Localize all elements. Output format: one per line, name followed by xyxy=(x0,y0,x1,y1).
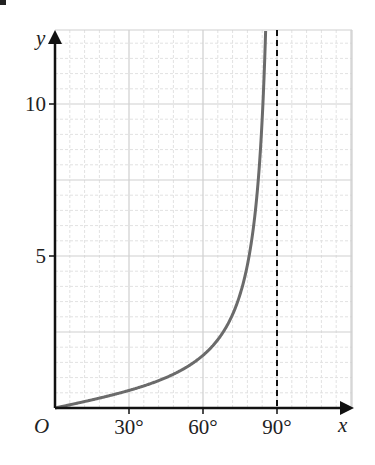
origin-label: O xyxy=(34,414,49,438)
x-axis-label: x xyxy=(337,413,348,437)
tan-curve xyxy=(55,31,266,408)
x-tick-label: 60° xyxy=(188,415,217,439)
x-tick-label: 30° xyxy=(114,415,143,439)
y-axis-label: y xyxy=(34,26,46,50)
y-axis-arrow-icon xyxy=(48,30,62,44)
x-tick-label: 90° xyxy=(262,415,291,439)
tan-graph: 30°60°90°510 y x O xyxy=(0,0,375,465)
y-tick-label: 10 xyxy=(25,92,46,116)
y-tick-label: 5 xyxy=(36,244,47,268)
